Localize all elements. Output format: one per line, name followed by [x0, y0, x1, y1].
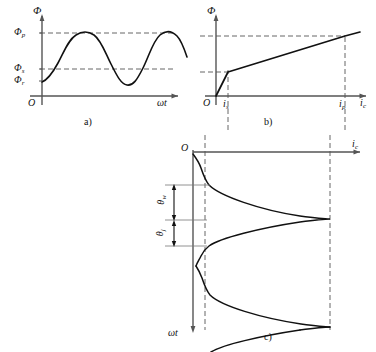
theta-j-sub: j — [158, 229, 166, 231]
phi-r-base: Φ — [14, 74, 22, 85]
ip-sub: p — [342, 103, 346, 111]
panel-c-x-sub: c — [355, 143, 358, 151]
panel-c-origin-label: O — [181, 143, 188, 153]
panel-a-origin-label: O — [28, 98, 35, 108]
panel-b-origin-label: O — [203, 98, 210, 108]
panel-b-y-axis-label: Φ — [207, 5, 215, 16]
phi-p-base: Φ — [14, 26, 22, 37]
is-sub: s — [226, 103, 229, 111]
panel-c-y-axis-label: ωt — [168, 328, 178, 338]
phi-s-sub: s — [22, 67, 25, 75]
phi-s-base: Φ — [14, 62, 22, 73]
panel-a-tick-label-phi-r: Φr — [14, 75, 25, 87]
panel-c-pulse-2-tail — [300, 327, 330, 330]
phi-p-sub: p — [22, 31, 26, 39]
panel-c-caption: c) — [264, 332, 272, 342]
panel-a-tick-label-phi-s: Φs — [14, 63, 25, 75]
panel-b-group — [200, 14, 366, 130]
panel-a-tick-label-phi-p: Φp — [14, 27, 25, 39]
panel-c-pulse-2 — [196, 266, 330, 327]
panel-b-caption: b) — [264, 117, 272, 127]
theta-w-base: θ — [155, 200, 166, 205]
panel-c-pulse-1 — [193, 154, 330, 266]
panel-b-tick-label-ip: ip — [339, 99, 345, 111]
phi-r-sub: r — [22, 79, 25, 87]
panel-c-group — [165, 135, 360, 352]
panel-c-pulse-2-return — [211, 330, 300, 352]
panel-a-x-axis-label: ωt — [157, 98, 167, 108]
theta-w-sub: w — [160, 195, 168, 200]
panel-a-caption: a) — [84, 117, 92, 127]
panel-b-x-axis-label: ic — [360, 98, 366, 110]
panel-b-magnetization-curve — [216, 32, 360, 96]
theta-j-base: θ — [154, 231, 165, 236]
panel-c-x-axis-label: ic — [352, 139, 358, 151]
panel-a-flux-curve — [42, 32, 187, 85]
panel-c-theta-j-arrow-top — [172, 220, 176, 226]
figure-svg — [0, 0, 376, 352]
panel-c-theta-w-label: θw — [156, 195, 168, 205]
panel-a-y-axis-label: Φ — [33, 5, 41, 16]
panel-c-theta-j-label: θj — [155, 229, 167, 236]
panel-a-group — [30, 14, 187, 105]
panel-b-x-sub: c — [363, 102, 366, 110]
figure-root: Φ Φp Φs Φr O ωt a) Φ O is ip ic b) O ic … — [0, 0, 376, 352]
panel-a-x-arrow — [172, 94, 179, 99]
panel-c-y-arrow — [191, 326, 196, 333]
panel-b-tick-label-is: is — [223, 99, 229, 111]
